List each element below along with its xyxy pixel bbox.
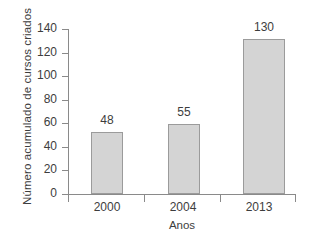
bar-2013 (243, 39, 285, 194)
x-tick-label-2004: 2004 (152, 200, 214, 214)
x-tick-start (68, 195, 69, 202)
y-tick-100 (62, 76, 69, 77)
bar-value-2004: 55 (154, 105, 214, 119)
y-tick-80 (62, 100, 69, 101)
y-tick-label-60: 60 (0, 115, 57, 129)
y-tick-140 (62, 29, 69, 30)
y-axis-title: Número acumulado de cursos criados (21, 15, 33, 205)
y-tick-label-80: 80 (0, 92, 57, 106)
bar-2000 (91, 132, 123, 194)
y-tick-60 (62, 123, 69, 124)
bar-value-2000: 48 (77, 113, 137, 127)
y-tick-label-140: 140 (0, 21, 57, 35)
x-axis-title: Anos (68, 219, 296, 231)
bar-value-2013: 130 (234, 20, 294, 34)
x-tick-end (295, 195, 296, 202)
bar-2004 (168, 124, 200, 194)
x-tick-div-1 (144, 195, 145, 202)
y-tick-20 (62, 170, 69, 171)
y-tick-label-20: 20 (0, 162, 57, 176)
x-tick-div-2 (220, 195, 221, 202)
x-tick-label-2000: 2000 (76, 200, 138, 214)
y-tick-label-100: 100 (0, 68, 57, 82)
y-tick-label-0: 0 (0, 186, 57, 200)
y-tick-label-40: 40 (0, 139, 57, 153)
y-tick-120 (62, 53, 69, 54)
y-tick-label-120: 120 (0, 45, 57, 59)
bar-chart: Número acumulado de cursos criados 0 20 … (0, 0, 309, 240)
y-tick-40 (62, 147, 69, 148)
x-axis-line (68, 194, 296, 195)
x-tick-label-2013: 2013 (228, 200, 290, 214)
